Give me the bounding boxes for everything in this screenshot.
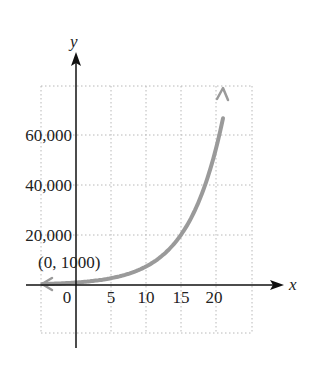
x-axis-label: x (288, 275, 297, 294)
point-annotation: (0, 1000) (38, 253, 100, 272)
y-tick-40000: 40,000 (25, 176, 72, 195)
x-tick-15: 15 (173, 288, 190, 307)
y-tick-60000: 60,000 (25, 126, 72, 145)
exponential-graph: y x 60,000 40,000 20,000 0 5 10 15 20 (0… (0, 0, 313, 371)
y-tick-20000: 20,000 (25, 226, 72, 245)
y-axis-label: y (68, 32, 78, 51)
x-tick-5: 5 (107, 288, 116, 307)
x-tick-10: 10 (138, 288, 155, 307)
x-tick-0: 0 (63, 288, 72, 307)
x-tick-20: 20 (206, 288, 223, 307)
curve-arrow-top-icon (217, 88, 228, 100)
